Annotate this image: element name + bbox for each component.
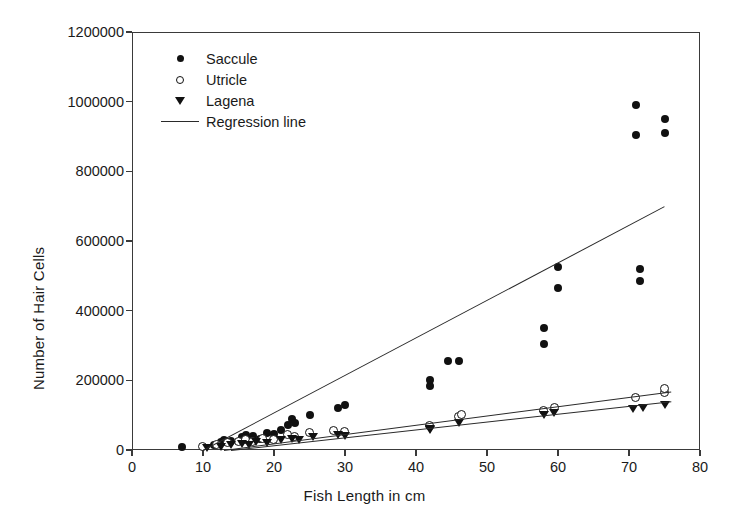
x-tick-label-7: 70	[621, 459, 637, 475]
x-tick-mark-5	[486, 450, 487, 456]
line-swatch-icon	[161, 121, 199, 122]
x-tick-label-8: 80	[692, 459, 708, 475]
legend-marker	[158, 97, 202, 105]
plot-frame-right	[699, 32, 700, 450]
y-tick-label-3: 600000	[76, 233, 124, 249]
data-point-saccule	[554, 284, 562, 292]
x-tick-mark-0	[131, 450, 132, 456]
y-tick-label-5: 1000000	[68, 94, 124, 110]
regression-line-0	[203, 206, 665, 451]
y-axis-line	[132, 32, 133, 450]
data-point-saccule	[306, 411, 314, 419]
plot-area: 020000040000060000080000010000001200000 …	[132, 32, 700, 450]
legend-item-lagena: Lagena	[158, 90, 306, 111]
plot-frame-top	[132, 32, 700, 33]
triangle-down-icon	[175, 97, 185, 105]
x-tick-mark-8	[699, 450, 700, 456]
legend-label: Utricle	[202, 72, 247, 88]
x-tick-mark-3	[344, 450, 345, 456]
y-tick-label-1: 200000	[76, 372, 124, 388]
x-tick-mark-2	[273, 450, 274, 456]
data-point-saccule	[632, 101, 640, 109]
legend-label: Saccule	[202, 51, 258, 67]
y-tick-mark-1	[126, 380, 132, 381]
y-tick-label-0: 0	[116, 442, 124, 458]
data-point-saccule	[540, 340, 548, 348]
y-tick-label-6: 1200000	[68, 24, 124, 40]
data-point-saccule	[636, 265, 644, 273]
x-tick-label-0: 0	[128, 459, 136, 475]
data-point-saccule	[455, 357, 463, 365]
regression-line-2	[231, 401, 671, 451]
y-tick-label-2: 400000	[76, 303, 124, 319]
x-axis-title: Fish Length in cm	[0, 487, 729, 504]
x-tick-mark-4	[415, 450, 416, 456]
x-tick-label-4: 40	[408, 459, 424, 475]
data-point-saccule	[444, 357, 452, 365]
y-axis-title: Number of Hair Cells	[30, 247, 47, 390]
x-tick-label-3: 30	[337, 459, 353, 475]
legend-item-regression-line: Regression line	[158, 111, 306, 132]
legend-label: Lagena	[202, 93, 254, 109]
open-circle-icon	[176, 76, 184, 84]
chart-figure: Number of Hair Cells 0200000400000600000…	[0, 0, 729, 531]
data-point-saccule	[661, 129, 669, 137]
legend-marker	[158, 55, 202, 62]
data-point-saccule	[632, 131, 640, 139]
data-point-saccule	[291, 419, 299, 427]
x-tick-label-2: 20	[266, 459, 282, 475]
y-tick-mark-3	[126, 240, 132, 241]
chart-legend: SacculeUtricleLagenaRegression line	[158, 48, 306, 132]
x-tick-label-1: 10	[195, 459, 211, 475]
legend-marker	[158, 76, 202, 84]
x-tick-label-6: 60	[550, 459, 566, 475]
data-point-saccule	[178, 443, 186, 451]
legend-item-saccule: Saccule	[158, 48, 306, 69]
data-point-saccule	[540, 324, 548, 332]
y-tick-mark-2	[126, 310, 132, 311]
x-tick-mark-7	[628, 450, 629, 456]
data-point-saccule	[341, 401, 349, 409]
y-tick-mark-4	[126, 171, 132, 172]
y-tick-label-4: 800000	[76, 163, 124, 179]
y-tick-mark-6	[126, 31, 132, 32]
x-tick-label-5: 50	[479, 459, 495, 475]
x-tick-mark-6	[557, 450, 558, 456]
y-tick-mark-5	[126, 101, 132, 102]
legend-item-utricle: Utricle	[158, 69, 306, 90]
filled-circle-icon	[177, 55, 184, 62]
data-point-saccule	[636, 277, 644, 285]
data-point-saccule	[661, 115, 669, 123]
legend-marker	[158, 121, 202, 122]
legend-label: Regression line	[202, 114, 306, 130]
